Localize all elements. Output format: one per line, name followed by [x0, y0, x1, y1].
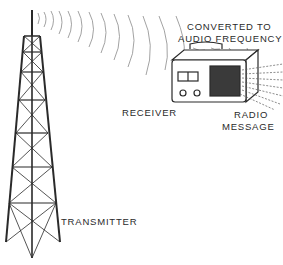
label-converted-line1: CONVERTED TO [187, 22, 272, 32]
label-transmitter: TRANSMITTER [61, 217, 137, 227]
label-message: MESSAGE [222, 122, 275, 132]
label-receiver: RECEIVER [122, 108, 177, 118]
label-converted-line2: AUDIO FREQUENCY [178, 34, 282, 44]
receiver-radio [172, 42, 258, 102]
label-radio: RADIO [234, 110, 268, 120]
transmitter-tower [6, 10, 60, 258]
